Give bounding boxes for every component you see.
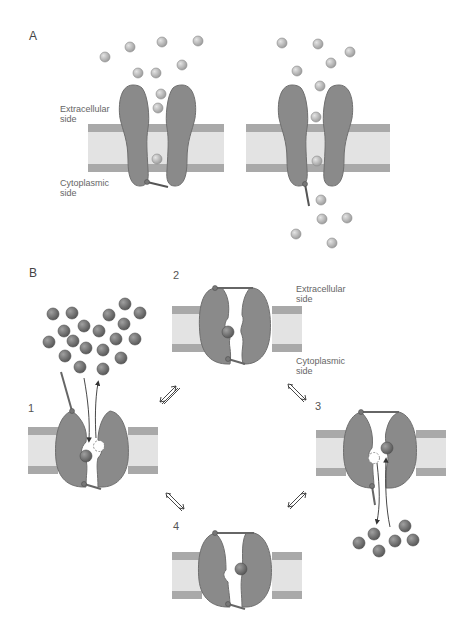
equilibrium-arrow-4-1	[166, 493, 184, 511]
equilibrium-arrow-2-3	[288, 384, 306, 402]
transporter-state-3	[316, 410, 446, 528]
equilibrium-arrow-3-4	[288, 491, 306, 509]
empty-binding-site	[94, 441, 105, 452]
closed-gate	[147, 182, 168, 187]
open-gate	[305, 184, 309, 206]
transporter-state-2	[172, 286, 302, 365]
panel-a-membrane-left	[88, 124, 224, 172]
diagram-canvas	[0, 0, 468, 639]
transporter-state-4	[172, 531, 302, 610]
equilibrium-arrow-1-2	[160, 386, 180, 404]
ions-b-extracellular	[43, 298, 146, 375]
transporter-state-1	[28, 372, 158, 489]
ions-b-cytoplasmic	[353, 520, 419, 557]
